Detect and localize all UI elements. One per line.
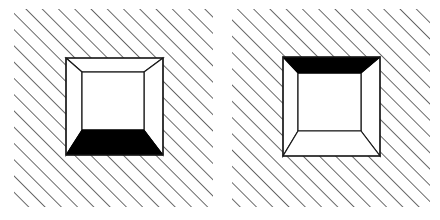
left-panel bbox=[14, 9, 213, 207]
right-panel bbox=[232, 9, 430, 207]
left-box bbox=[66, 58, 163, 155]
figure-root bbox=[0, 0, 440, 220]
perspective-box-illusion-figure bbox=[0, 0, 440, 220]
right-box-back-wall-face bbox=[298, 73, 361, 131]
right-box bbox=[283, 57, 380, 156]
left-box-back-wall-face bbox=[82, 72, 144, 130]
